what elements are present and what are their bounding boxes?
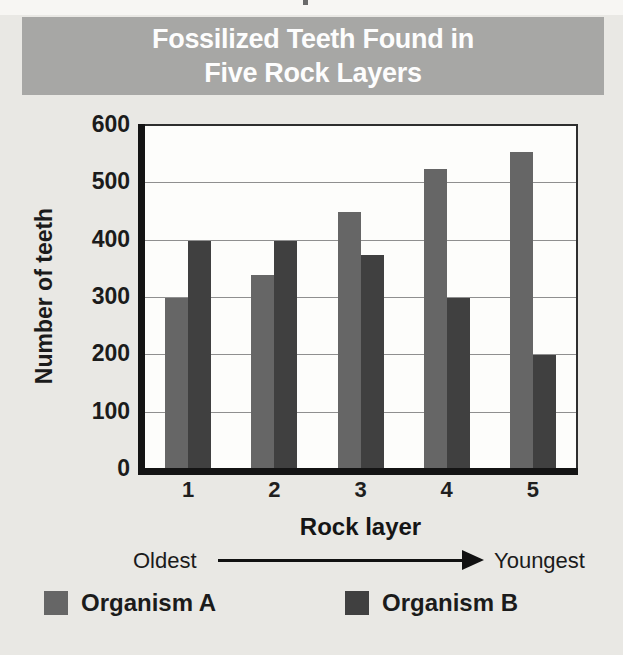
- legend-label: Organism A: [81, 589, 216, 617]
- bar-organism-b-layer-1: [188, 241, 211, 470]
- bar-organism-a-layer-4: [424, 169, 447, 470]
- bar-group-layer-2: [231, 126, 317, 470]
- chart-title-line-2: Five Rock Layers: [204, 56, 421, 90]
- bar-group-layer-1: [145, 126, 231, 470]
- bar-organism-a-layer-2: [251, 275, 274, 470]
- chart-title-bar: Fossilized Teeth Found in Five Rock Laye…: [22, 17, 604, 95]
- bar-organism-a-layer-1: [165, 298, 188, 470]
- legend-item-organism-b: Organism B: [345, 589, 518, 617]
- page-crop-artifact: [303, 0, 308, 5]
- bar-group-layer-4: [404, 126, 490, 470]
- legend-label: Organism B: [382, 589, 518, 617]
- x-tick-label-4: 4: [404, 477, 490, 503]
- bar-organism-a-layer-5: [510, 152, 533, 470]
- y-axis-line: [138, 124, 145, 475]
- bar-organism-b-layer-5: [533, 355, 556, 470]
- x-axis-line: [138, 468, 578, 475]
- bar-group-layer-3: [317, 126, 403, 470]
- legend-item-organism-a: Organism A: [44, 589, 216, 617]
- bar-organism-b-layer-3: [361, 255, 384, 470]
- y-tick-label-600: 600: [58, 111, 130, 137]
- x-tick-label-1: 1: [145, 477, 231, 503]
- oldest-label: Oldest: [133, 548, 197, 574]
- x-axis-tick-labels: 12345: [145, 477, 576, 503]
- plot-area: [145, 124, 578, 470]
- youngest-label: Youngest: [494, 548, 585, 574]
- y-axis-title: Number of teeth: [31, 208, 58, 384]
- x-axis-title: Rock layer: [145, 513, 576, 541]
- x-tick-label-2: 2: [231, 477, 317, 503]
- age-arrow-line: [218, 559, 464, 562]
- age-arrow-head-icon: [462, 550, 484, 570]
- x-tick-label-3: 3: [317, 477, 403, 503]
- y-tick-label-200: 200: [58, 340, 130, 366]
- bar-organism-b-layer-2: [274, 241, 297, 470]
- legend: Organism AOrganism B: [0, 589, 623, 617]
- y-tick-label-0: 0: [58, 455, 130, 481]
- bar-series: [145, 126, 576, 470]
- x-tick-label-5: 5: [490, 477, 576, 503]
- page-top-margin: [0, 0, 623, 15]
- chart-title-line-1: Fossilized Teeth Found in: [152, 22, 474, 56]
- bar-group-layer-5: [490, 126, 576, 470]
- bar-organism-b-layer-4: [447, 298, 470, 470]
- y-tick-label-100: 100: [58, 398, 130, 424]
- y-tick-label-500: 500: [58, 168, 130, 194]
- bar-organism-a-layer-3: [338, 212, 361, 470]
- y-tick-label-300: 300: [58, 283, 130, 309]
- legend-swatch-icon: [44, 591, 68, 615]
- legend-swatch-icon: [345, 591, 369, 615]
- y-tick-label-400: 400: [58, 226, 130, 252]
- page: Fossilized Teeth Found in Five Rock Laye…: [0, 0, 623, 655]
